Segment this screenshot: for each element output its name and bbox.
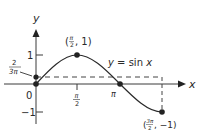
- intercept-den: 3π: [9, 68, 18, 76]
- y-tick-label-1: 1: [27, 50, 33, 61]
- trough-label-rest: , −1): [154, 120, 177, 130]
- x-axis-arrow-icon: [178, 81, 186, 88]
- peak-point: [74, 52, 80, 58]
- peak-label-open: (: [65, 36, 69, 47]
- y-axis-label: y: [32, 12, 40, 25]
- x-tick-pi-label: π: [111, 90, 116, 99]
- origin-point: [33, 81, 39, 87]
- peak-label-num: π: [70, 34, 74, 41]
- function-label: y = sin x: [107, 57, 152, 68]
- trough-point: [159, 109, 165, 115]
- origin-label: 0: [26, 90, 32, 101]
- intercept-point: [33, 74, 38, 79]
- sine-graph: y x 0 1 −1 π 2 π 2 3π ( π 2 , 1) y = sin…: [0, 0, 200, 132]
- intercept-num: 2: [12, 59, 16, 67]
- y-tick-label-neg1: −1: [21, 107, 36, 118]
- x-axis-label: x: [188, 78, 196, 91]
- x-tick-pi-half-den: 2: [75, 100, 79, 108]
- trough-label-num: 3π: [147, 118, 154, 124]
- peak-label-den: 2: [70, 41, 74, 48]
- pi-point: [117, 81, 123, 87]
- peak-label-rest: , 1): [75, 36, 92, 47]
- intercept-pointer: [20, 72, 32, 76]
- y-axis-arrow-icon: [33, 29, 40, 37]
- x-tick-pi-half-num: π: [75, 92, 79, 100]
- trough-label-den: 2: [148, 125, 152, 131]
